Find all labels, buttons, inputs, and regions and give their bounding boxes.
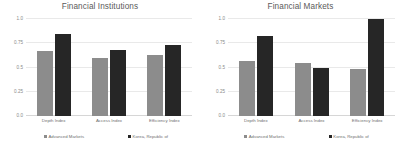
y-axis-tick-label: 0.75: [216, 40, 225, 45]
bar: [239, 61, 255, 116]
bar: [165, 45, 181, 116]
chart-panel-financial-institutions: Financial Institutions 0.00.250.50.751.0…: [0, 0, 200, 149]
category-label: Access Index: [81, 118, 136, 123]
legend-swatch-icon: [329, 135, 332, 138]
category-label: Access Index: [284, 118, 340, 123]
y-axis-tick-label: 0.0: [17, 113, 23, 118]
category-label: Efficiency Index: [339, 118, 395, 123]
legend-label: Advanced Markets: [249, 134, 285, 139]
chart-title: Financial Institutions: [0, 2, 200, 11]
bar-group: [284, 19, 340, 116]
category-label: Depth Index: [26, 118, 81, 123]
y-axis-tick-label: 0.5: [219, 64, 225, 69]
y-axis-tick-label: 0.25: [216, 88, 225, 93]
legend-left: Advanced Markets Korea, Republic of: [22, 134, 190, 139]
bar: [313, 68, 329, 116]
chart-title: Financial Markets: [200, 2, 401, 11]
bar-group: [339, 19, 395, 116]
legend-label: Advanced Markets: [49, 134, 85, 139]
category-labels-left: Depth IndexAccess IndexEfficiency Index: [26, 118, 192, 123]
category-label: Depth Index: [228, 118, 284, 123]
category-label: Efficiency Index: [137, 118, 192, 123]
y-axis-tick-label: 0.0: [219, 113, 225, 118]
y-axis-tick-label: 0.25: [14, 88, 23, 93]
bar: [257, 36, 273, 117]
bar: [350, 69, 366, 116]
legend-item: Advanced Markets: [244, 134, 284, 139]
legend-right: Advanced Markets Korea, Republic of: [222, 134, 391, 139]
legend-swatch-icon: [128, 135, 131, 138]
legend-swatch-icon: [244, 135, 247, 138]
legend-item: Korea, Republic of: [128, 134, 168, 139]
bar-group: [26, 19, 81, 116]
bar-groups-left: [26, 19, 192, 116]
y-axis-tick-label: 1.0: [17, 16, 23, 21]
legend-item: Advanced Markets: [44, 134, 84, 139]
chart-panel-financial-markets: Financial Markets 0.00.250.50.751.0 Dept…: [200, 0, 401, 149]
bar-group: [228, 19, 284, 116]
legend-label: Korea, Republic of: [333, 134, 368, 139]
y-axis-tick-label: 0.75: [14, 40, 23, 45]
bar-groups-right: [228, 19, 395, 116]
plot-area-right: 0.00.250.50.751.0: [228, 19, 395, 116]
bar: [147, 55, 163, 116]
legend-label: Korea, Republic of: [133, 134, 168, 139]
bar-group: [81, 19, 136, 116]
bar-group: [137, 19, 192, 116]
bar: [92, 58, 108, 116]
category-labels-right: Depth IndexAccess IndexEfficiency Index: [228, 118, 395, 123]
bar: [55, 34, 71, 116]
bar: [110, 50, 126, 116]
plot-area-left: 0.00.250.50.751.0: [26, 19, 192, 116]
legend-item: Korea, Republic of: [329, 134, 369, 139]
y-axis-tick-label: 0.5: [17, 64, 23, 69]
bar: [295, 63, 311, 116]
y-axis-tick-label: 1.0: [219, 16, 225, 21]
legend-swatch-icon: [44, 135, 47, 138]
bar: [37, 51, 53, 116]
bar: [368, 19, 384, 116]
chart-pair: Financial Institutions 0.00.250.50.751.0…: [0, 0, 401, 149]
